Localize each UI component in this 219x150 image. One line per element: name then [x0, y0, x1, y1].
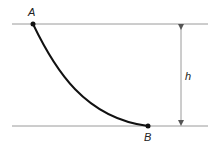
label-point-a: A — [27, 6, 35, 18]
label-height: h — [185, 70, 191, 82]
diagram-canvas: A B h — [0, 0, 219, 150]
point-b — [146, 124, 151, 129]
point-a — [31, 22, 36, 27]
curve-a-to-b — [33, 24, 148, 126]
label-point-b: B — [144, 131, 151, 143]
